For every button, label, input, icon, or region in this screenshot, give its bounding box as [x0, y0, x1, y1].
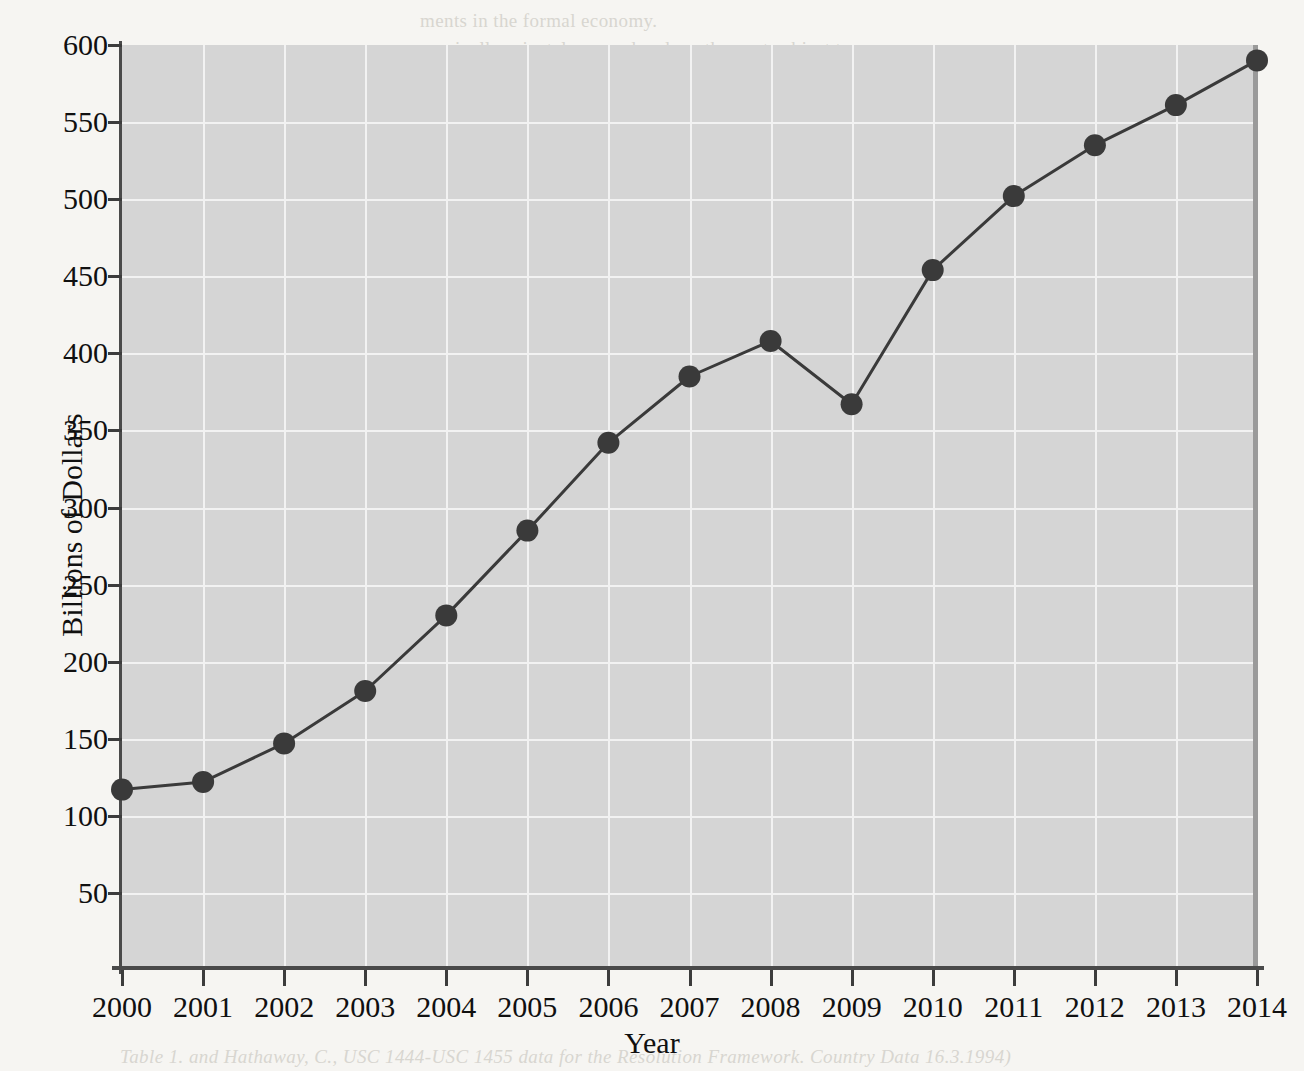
- x-axis-title: Year: [0, 1026, 1304, 1060]
- plot-right-edge: [1253, 45, 1258, 970]
- y-axis-tick-label: 600: [63, 30, 108, 60]
- x-axis-tick-label: 2010: [903, 992, 963, 1022]
- y-axis-tick: [108, 738, 122, 741]
- line-chart-figure: 5010015020025030035040045050055060020002…: [0, 0, 1304, 1071]
- x-axis-tick-label: 2009: [822, 992, 882, 1022]
- gridline-vertical: [527, 45, 529, 970]
- y-axis-tick: [108, 352, 122, 355]
- y-axis-tick-label: 450: [63, 261, 108, 291]
- gridline-vertical: [203, 45, 205, 970]
- gridline-vertical: [284, 45, 286, 970]
- x-axis-tick: [932, 970, 935, 986]
- y-axis-tick-label: 550: [63, 107, 108, 137]
- x-axis-tick-label: 2003: [335, 992, 395, 1022]
- gridline-vertical: [1176, 45, 1178, 970]
- y-axis-tick-label: 100: [63, 801, 108, 831]
- x-axis-tick: [202, 970, 205, 986]
- gridline-vertical: [690, 45, 692, 970]
- y-axis-tick: [108, 507, 122, 510]
- x-axis-tick: [1175, 970, 1178, 986]
- gridline-vertical: [446, 45, 448, 970]
- x-axis-tick-label: 2005: [497, 992, 557, 1022]
- x-axis-tick-label: 2004: [416, 992, 476, 1022]
- gridline-vertical: [1095, 45, 1097, 970]
- x-axis-tick: [1094, 970, 1097, 986]
- x-axis-tick-label: 2007: [660, 992, 720, 1022]
- y-axis-tick: [108, 429, 122, 432]
- gridline-vertical: [771, 45, 773, 970]
- x-axis-tick: [607, 970, 610, 986]
- gridline-vertical: [365, 45, 367, 970]
- x-axis-tick-label: 2012: [1065, 992, 1125, 1022]
- y-axis-title: Billions of Dollars: [55, 375, 89, 675]
- y-axis-tick: [108, 584, 122, 587]
- x-axis-tick-label: 2013: [1146, 992, 1206, 1022]
- y-axis-tick-label: 400: [63, 338, 108, 368]
- gridline-vertical: [608, 45, 610, 970]
- x-axis-tick-label: 2014: [1227, 992, 1287, 1022]
- gridline-vertical: [852, 45, 854, 970]
- x-axis-tick: [1256, 970, 1259, 986]
- y-axis-tick: [108, 275, 122, 278]
- y-axis-tick: [108, 661, 122, 664]
- y-axis-tick: [108, 121, 122, 124]
- x-axis-tick: [526, 970, 529, 986]
- gridline-vertical: [933, 45, 935, 970]
- x-axis-tick: [851, 970, 854, 986]
- y-axis-tick: [108, 198, 122, 201]
- x-axis-tick-label: 2001: [173, 992, 233, 1022]
- plot-area: [122, 45, 1257, 970]
- gridline-vertical: [1014, 45, 1016, 970]
- x-axis-tick-label: 2008: [741, 992, 801, 1022]
- x-axis-tick: [1013, 970, 1016, 986]
- x-axis-tick: [121, 970, 124, 986]
- y-axis-tick: [108, 44, 122, 47]
- x-axis-tick: [770, 970, 773, 986]
- y-axis-tick-label: 500: [63, 184, 108, 214]
- x-axis-tick: [689, 970, 692, 986]
- x-axis-tick-label: 2000: [92, 992, 152, 1022]
- y-axis-tick-label: 150: [63, 724, 108, 754]
- x-axis-tick: [283, 970, 286, 986]
- x-axis-tick-label: 2002: [254, 992, 314, 1022]
- x-axis-tick-label: 2006: [578, 992, 638, 1022]
- y-axis-tick: [108, 815, 122, 818]
- y-axis-tick: [108, 892, 122, 895]
- y-axis-tick-label: 50: [78, 878, 108, 908]
- x-axis-tick-label: 2011: [984, 992, 1043, 1022]
- x-axis-tick: [364, 970, 367, 986]
- page-root: ments in the formal economy.nominally pr…: [0, 0, 1304, 1071]
- x-axis-tick: [445, 970, 448, 986]
